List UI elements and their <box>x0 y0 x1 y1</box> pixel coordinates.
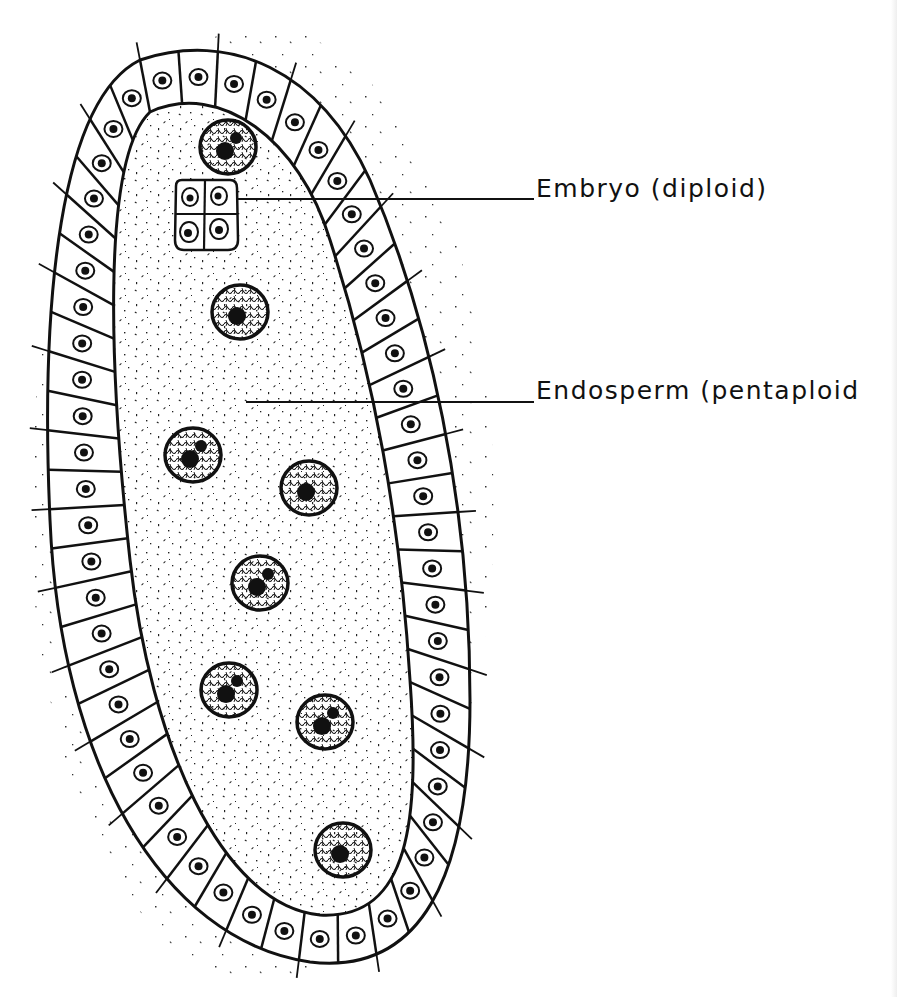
endosperm-nucleus <box>201 663 257 717</box>
endosperm-nucleus <box>297 695 353 749</box>
embryo <box>175 180 238 250</box>
endosperm-nucleus <box>165 428 221 482</box>
endosperm-nucleus <box>232 556 288 610</box>
endosperm-label: Endosperm (pentaploid <box>536 378 860 403</box>
endosperm-nucleus <box>281 461 337 515</box>
seed-section-diagram: Embryo (diploid) Endosperm (pentaploid <box>0 0 897 997</box>
page-edge-shadow <box>891 0 897 997</box>
seed-illustration <box>0 0 897 997</box>
endosperm-nucleus <box>212 285 268 339</box>
endosperm-nucleus <box>200 120 256 174</box>
embryo-label: Embryo (diploid) <box>536 176 768 201</box>
endosperm-nucleus <box>315 823 371 877</box>
